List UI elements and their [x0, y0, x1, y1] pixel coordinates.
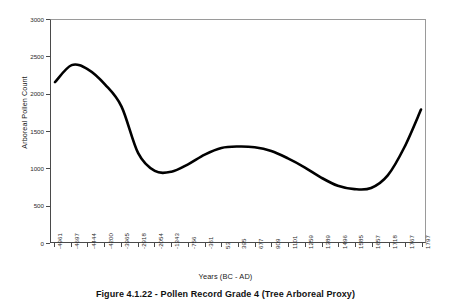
x-axis-title: Years (BC - AD) — [0, 272, 451, 281]
x-tick-label: 1718 — [391, 235, 398, 249]
x-tick-mark — [121, 243, 122, 247]
y-tick-label: 2500 — [4, 53, 44, 60]
y-axis-title: Arboreal Pollen Count — [20, 43, 29, 183]
x-tick-label: 677 — [257, 239, 264, 249]
y-tick-label: 0 — [4, 240, 44, 247]
x-tick-mark — [389, 243, 390, 247]
x-tick-label: -1343 — [173, 233, 180, 249]
x-tick-label: -4961 — [56, 233, 63, 249]
y-tick-label: 2000 — [4, 90, 44, 97]
x-tick-label: 1389 — [324, 235, 331, 249]
x-tick-mark — [288, 243, 289, 247]
x-tick-mark — [171, 243, 172, 247]
x-tick-mark — [372, 243, 373, 247]
x-tick-mark — [271, 243, 272, 247]
x-tick-mark — [54, 243, 55, 247]
x-tick-mark — [87, 243, 88, 247]
plot-area — [50, 19, 426, 243]
y-tick-mark — [46, 243, 50, 244]
x-tick-label: 1101 — [291, 235, 298, 249]
x-tick-mark — [422, 243, 423, 247]
x-tick-label: -2918 — [140, 233, 147, 249]
x-tick-mark — [255, 243, 256, 247]
series-layer — [51, 20, 425, 242]
y-tick-label: 3000 — [4, 16, 44, 23]
x-tick-label: 909 — [274, 239, 281, 249]
y-tick-label: 500 — [4, 202, 44, 209]
x-tick-mark — [355, 243, 356, 247]
figure-caption: Figure 4.1.22 - Pollen Record Grade 4 (T… — [0, 289, 451, 299]
x-tick-mark — [138, 243, 139, 247]
x-tick-mark — [221, 243, 222, 247]
x-tick-mark — [305, 243, 306, 247]
y-tick-label: 1500 — [4, 128, 44, 135]
figure-container: Arboreal Pollen Count 050010001500200025… — [0, 0, 451, 299]
x-tick-label: -4697 — [73, 233, 80, 249]
x-tick-label: 53 — [224, 242, 231, 249]
x-tick-mark — [405, 243, 406, 247]
x-tick-mark — [238, 243, 239, 247]
x-tick-label: 1585 — [357, 235, 364, 249]
x-tick-mark — [205, 243, 206, 247]
x-tick-label: 1259 — [307, 235, 314, 249]
x-tick-label: 1657 — [374, 235, 381, 249]
x-tick-label: 1797 — [424, 235, 431, 249]
x-tick-mark — [154, 243, 155, 247]
x-tick-mark — [188, 243, 189, 247]
x-tick-label: -756 — [190, 236, 197, 249]
x-tick-mark — [71, 243, 72, 247]
x-tick-mark — [338, 243, 339, 247]
x-tick-mark — [322, 243, 323, 247]
x-tick-label: 1496 — [341, 235, 348, 249]
x-tick-label: -4200 — [107, 233, 114, 249]
y-tick-label: 1000 — [4, 165, 44, 172]
x-tick-label: -361 — [207, 236, 214, 249]
pollen-count-line — [51, 20, 425, 242]
x-tick-label: -2054 — [157, 233, 164, 249]
x-tick-label: 395 — [240, 239, 247, 249]
x-tick-label: -3965 — [123, 233, 130, 249]
x-tick-label: -4444 — [90, 233, 97, 249]
x-tick-label: 1767 — [408, 235, 415, 249]
x-tick-mark — [104, 243, 105, 247]
